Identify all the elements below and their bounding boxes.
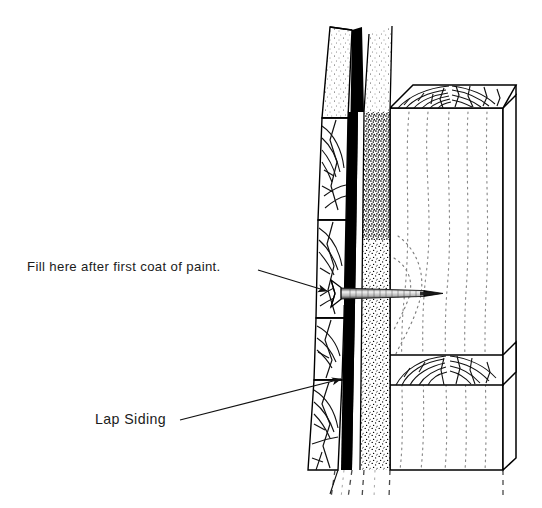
sheathing-dense-zone <box>362 112 390 240</box>
blocking-front-face <box>390 355 503 385</box>
lap-siding-label: Lap Siding <box>95 411 166 427</box>
fill-note-label: Fill here after first coat of paint. <box>27 259 221 274</box>
siding-detail-drawing: Fill here after first coat of paint. Lap… <box>0 0 542 508</box>
wall-sheathing <box>360 26 392 470</box>
framing-stud <box>390 85 516 470</box>
stud-side-face <box>503 95 516 470</box>
figure-root: Fill here after first coat of paint. Lap… <box>0 0 542 508</box>
